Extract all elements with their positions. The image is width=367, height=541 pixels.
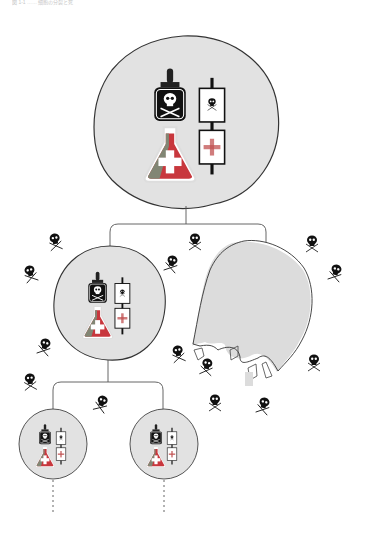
skull-icon <box>93 394 110 414</box>
skull-icon <box>171 345 186 363</box>
skull-icon <box>23 264 39 283</box>
skull-icon <box>199 358 214 376</box>
lysed-cytoplasm <box>192 242 311 372</box>
skull-icon <box>256 396 272 415</box>
skull-icon <box>209 395 221 412</box>
lineage-connector-1 <box>110 206 266 246</box>
skull-icon <box>189 234 201 251</box>
skull-icon <box>48 233 63 251</box>
cell-membrane <box>54 246 165 360</box>
daughter-cell-with-plasmid <box>54 246 165 360</box>
parent-cell <box>94 36 279 209</box>
granddaughter-cell-2 <box>130 409 198 512</box>
skull-icon <box>308 355 320 372</box>
lineage-connector-2 <box>53 360 163 410</box>
cytoplasm-fragment <box>245 372 253 386</box>
skull-icon <box>164 254 180 273</box>
cell-membrane <box>19 409 87 479</box>
skull-icon <box>306 236 318 253</box>
skull-icon <box>23 373 36 390</box>
skull-icon <box>37 337 53 356</box>
cell-membrane <box>130 409 198 479</box>
skull-icon <box>328 263 344 282</box>
granddaughter-cell-1 <box>19 409 87 512</box>
